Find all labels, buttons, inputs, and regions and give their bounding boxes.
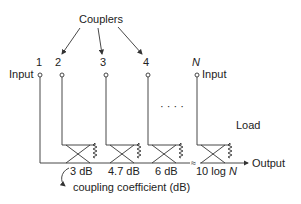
coupler-arrow-3 xyxy=(98,28,102,54)
port-number-n: N xyxy=(192,56,200,68)
coupler-arrow-4 xyxy=(118,27,142,54)
load-label: Load xyxy=(236,119,260,131)
input-label-right: Input xyxy=(202,68,226,80)
input-label-left: Input xyxy=(9,68,33,80)
coupler-n xyxy=(197,77,232,163)
port-terminal-n xyxy=(195,73,199,77)
coupling-value-n: 10 log N xyxy=(196,165,237,177)
coupler-2 xyxy=(106,77,141,163)
coupler-1 xyxy=(62,77,97,163)
port-number-4: 4 xyxy=(143,56,149,68)
port-terminal-4 xyxy=(146,73,150,77)
coupling-value-3: 6 dB xyxy=(155,165,178,177)
couplers-label: Couplers xyxy=(79,13,124,25)
coupler-arrow-2 xyxy=(62,28,80,54)
coupling-caption: coupling coefficient (dB) xyxy=(73,181,190,193)
port-number-2: 2 xyxy=(55,56,61,68)
port-number-3: 3 xyxy=(100,56,106,68)
port-number-1: 1 xyxy=(36,56,42,68)
port-terminal-3 xyxy=(104,73,108,77)
ellipsis: · · · · xyxy=(160,100,184,112)
output-label: Output xyxy=(252,157,285,169)
coupler-network-diagram: Couplers 1 2 3 4 N Input Input ≈ xyxy=(0,0,301,204)
coupling-value-2: 4.7 dB xyxy=(108,165,140,177)
caption-arrow xyxy=(62,168,69,186)
port-terminal-1 xyxy=(38,73,42,77)
coupler-3 xyxy=(148,77,183,163)
coupling-value-1: 3 dB xyxy=(70,165,93,177)
port-terminal-2 xyxy=(60,73,64,77)
